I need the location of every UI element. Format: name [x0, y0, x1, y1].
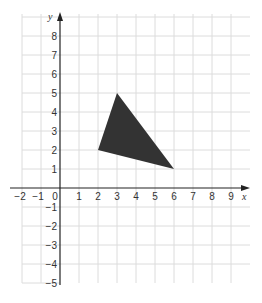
y-tick: 3 — [51, 126, 57, 137]
x-tick: 6 — [171, 191, 177, 202]
y-tick-labels: 8 7 6 5 4 3 2 1 −1 −2 −3 −4 −5 — [46, 31, 58, 289]
y-axis — [57, 12, 63, 285]
x-tick: 2 — [95, 191, 101, 202]
x-axis-label: x — [241, 191, 247, 202]
x-tick: 3 — [114, 191, 120, 202]
x-tick: 1 — [76, 191, 82, 202]
coordinate-grid: y x −2 −1 0 1 2 3 4 5 6 7 8 9 8 7 6 5 4 … — [0, 0, 262, 303]
y-tick: −5 — [46, 278, 58, 289]
y-axis-label: y — [47, 11, 53, 22]
y-tick: −3 — [46, 240, 58, 251]
y-tick: −1 — [46, 202, 58, 213]
y-tick: −2 — [46, 221, 58, 232]
y-tick: −4 — [46, 259, 58, 270]
y-tick: 6 — [51, 69, 57, 80]
x-tick: 5 — [152, 191, 158, 202]
y-tick: 7 — [51, 50, 57, 61]
x-tick: −1 — [32, 191, 44, 202]
x-tick: 8 — [209, 191, 215, 202]
y-tick: 4 — [51, 107, 57, 118]
y-tick: 2 — [51, 145, 57, 156]
x-tick: 0 — [52, 191, 58, 202]
x-tick: 9 — [228, 191, 234, 202]
x-tick: −2 — [14, 191, 26, 202]
x-tick: 7 — [190, 191, 196, 202]
y-tick: 5 — [51, 88, 57, 99]
x-tick-labels: −2 −1 0 1 2 3 4 5 6 7 8 9 — [14, 191, 234, 202]
y-tick: 8 — [51, 31, 57, 42]
x-tick: 4 — [133, 191, 139, 202]
y-tick: 1 — [51, 164, 57, 175]
